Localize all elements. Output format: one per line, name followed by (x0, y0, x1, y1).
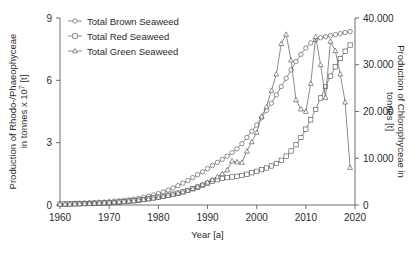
data-point-circle (230, 150, 234, 154)
x-tick-label: 2000 (246, 212, 269, 223)
x-tick-label: 1990 (196, 212, 219, 223)
data-point-square (348, 43, 352, 47)
data-point-circle (210, 163, 214, 167)
data-point-circle (343, 30, 347, 34)
data-point-circle (323, 35, 327, 39)
x-tick-label: 2020 (344, 212, 367, 223)
data-point-square (318, 96, 322, 100)
seaweed-production-line-chart: 19601970198019902000201020200369010.0002… (0, 0, 412, 254)
data-point-square (230, 175, 234, 179)
data-point-circle (191, 175, 195, 179)
data-point-circle (274, 93, 278, 97)
data-point-circle (73, 19, 77, 23)
chart-figure: 19601970198019902000201020200369010.0002… (0, 0, 412, 254)
data-point-circle (195, 172, 199, 176)
data-point-square (299, 135, 303, 139)
data-point-square (304, 127, 308, 131)
data-point-circle (304, 46, 308, 50)
y-left-title-line2: in tonnes x 107 [t] (18, 75, 30, 149)
data-point-square (259, 167, 263, 171)
data-point-circle (166, 188, 170, 192)
data-point-circle (245, 135, 249, 139)
data-point-square (254, 169, 258, 173)
x-tick-label: 1980 (147, 212, 170, 223)
x-axis-title: Year [a] (191, 229, 223, 240)
data-point-square (279, 158, 283, 162)
data-point-circle (309, 41, 313, 45)
y-left-title-unit: [t] (18, 75, 29, 86)
data-point-square (73, 34, 77, 38)
y-left-tick-label: 0 (46, 200, 52, 211)
data-point-square (333, 65, 337, 69)
data-point-square (343, 49, 347, 53)
data-point-circle (294, 59, 298, 63)
data-point-circle (328, 33, 332, 37)
data-point-circle (176, 183, 180, 187)
legend-item-label: Total Brown Seaweed (87, 16, 179, 27)
data-point-circle (225, 154, 229, 158)
data-point-circle (171, 186, 175, 190)
data-point-square (240, 173, 244, 177)
data-point-circle (235, 147, 239, 151)
data-point-circle (284, 76, 288, 80)
data-point-square (274, 161, 278, 165)
data-point-square (338, 56, 342, 60)
data-point-circle (181, 181, 185, 185)
data-point-circle (200, 170, 204, 174)
data-point-square (245, 172, 249, 176)
data-point-circle (205, 166, 209, 170)
data-point-square (289, 149, 293, 153)
x-tick-label: 1970 (98, 212, 121, 223)
data-point-circle (220, 157, 224, 161)
y-left-tick-label: 6 (46, 75, 52, 86)
data-point-square (294, 143, 298, 147)
data-point-circle (215, 160, 219, 164)
data-point-circle (186, 178, 190, 182)
data-point-circle (269, 101, 273, 105)
data-point-square (235, 174, 239, 178)
data-point-square (250, 171, 254, 175)
x-tick-label: 2010 (295, 212, 318, 223)
y-left-title-text: in tonnes x 10 (18, 89, 29, 148)
data-point-square (328, 74, 332, 78)
y-left-tick-label: 9 (46, 13, 52, 24)
y-right-tick-label: 30.000 (363, 59, 394, 70)
data-point-square (264, 166, 268, 170)
x-tick-label: 1960 (49, 212, 72, 223)
data-point-square (220, 176, 224, 180)
data-point-circle (318, 36, 322, 40)
y-left-title-line1: Production of Rhodo-/Phaeophyceae (7, 34, 18, 190)
y-right-title-line1: Production of Chlorophyceae in (396, 45, 407, 178)
data-point-square (225, 175, 229, 179)
y-right-title-line2: tonnes [t] (385, 92, 396, 131)
legend-item-label: Total Green Seaweed (87, 46, 178, 57)
data-point-circle (250, 129, 254, 133)
y-right-tick-label: 10.000 (363, 153, 394, 164)
data-point-circle (279, 84, 283, 88)
y-left-tick-label: 3 (46, 137, 52, 148)
data-point-circle (348, 29, 352, 33)
y-right-tick-label: 40.000 (363, 13, 394, 24)
data-point-square (269, 164, 273, 168)
data-point-square (309, 118, 313, 122)
legend-item-label: Total Red Seaweed (87, 31, 169, 42)
data-point-circle (299, 52, 303, 56)
data-point-circle (240, 142, 244, 146)
data-point-square (284, 154, 288, 158)
data-point-circle (333, 32, 337, 36)
data-point-circle (338, 31, 342, 35)
data-point-square (313, 107, 317, 111)
y-right-tick-label: 0 (363, 200, 369, 211)
